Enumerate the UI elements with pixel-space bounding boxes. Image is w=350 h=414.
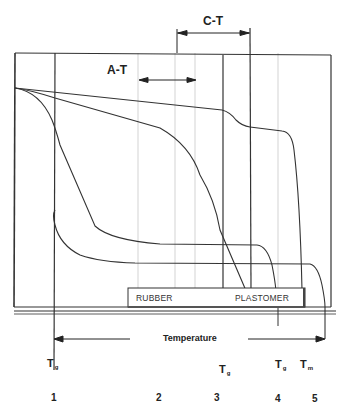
at-label: A-T xyxy=(107,63,127,77)
transition-lines xyxy=(54,28,278,370)
x-axis-label: Temperature xyxy=(163,333,217,343)
modulus-temperature-diagram xyxy=(0,0,350,414)
tg-label-1: Tg xyxy=(47,357,58,370)
tm-label: Tm xyxy=(300,358,313,371)
curve-4 xyxy=(15,88,246,291)
curve-number-3: 3 xyxy=(214,392,220,403)
tg-label-2: Tg xyxy=(219,363,230,376)
ct-label: C-T xyxy=(203,14,223,28)
at-range-arrow xyxy=(139,78,196,83)
curve-number-2: 2 xyxy=(156,392,162,403)
dotted-guide-lines xyxy=(138,53,278,307)
plastomer-label: PLASTOMER xyxy=(235,293,289,303)
curve-number-5: 5 xyxy=(312,393,318,404)
ct-range-arrow xyxy=(177,29,250,53)
tg-label-3: Tg xyxy=(275,358,286,371)
curve-number-4: 4 xyxy=(275,393,281,404)
curve-5 xyxy=(15,88,302,290)
modulus-curves xyxy=(15,88,325,307)
rubber-label: RUBBER xyxy=(136,293,173,303)
curve-number-1: 1 xyxy=(51,392,57,403)
